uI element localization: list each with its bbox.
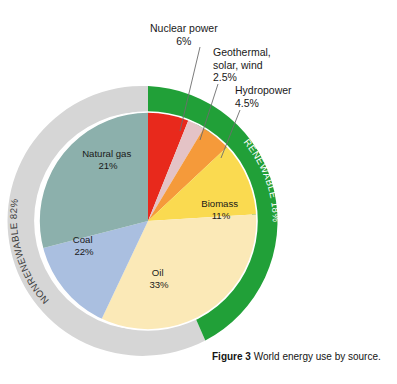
figure-caption-text: World energy use by source. xyxy=(254,351,381,362)
callout-geothermal-label-line1: Geothermal, xyxy=(213,46,271,58)
callout-hydropower-value: 4.5% xyxy=(235,97,292,110)
callout-hydropower: Hydropower 4.5% xyxy=(235,84,292,109)
pie-slices xyxy=(39,112,257,330)
callout-hydropower-label: Hydropower xyxy=(235,84,292,96)
callout-nuclear-label: Nuclear power xyxy=(150,22,218,34)
figure-world-energy-use: RENEWABLE 18% NONRENEWABLE 82% xyxy=(0,0,397,384)
callout-geothermal-label-line2: solar, wind xyxy=(213,59,271,72)
callout-geothermal-value: 2.5% xyxy=(213,71,271,84)
pie-chart: RENEWABLE 18% NONRENEWABLE 82% xyxy=(0,0,397,384)
slice-label-oil: Oil 33% xyxy=(149,267,169,290)
callout-nuclear-value: 6% xyxy=(150,35,218,48)
figure-number: Figure 3 xyxy=(212,351,251,362)
callout-geothermal-solar-wind: Geothermal, solar, wind 2.5% xyxy=(213,46,271,84)
slice-label-coal: Coal 22% xyxy=(73,234,95,257)
callout-nuclear-power: Nuclear power 6% xyxy=(150,22,218,47)
figure-caption: Figure 3 World energy use by source. xyxy=(212,350,381,363)
